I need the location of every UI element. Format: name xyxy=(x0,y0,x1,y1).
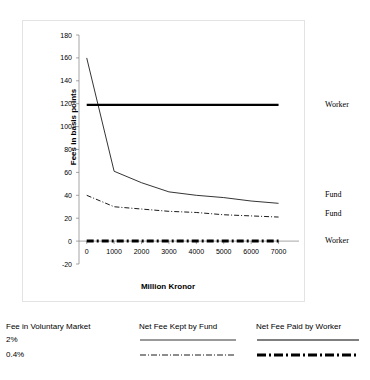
legend-value-04pct: 0.4% xyxy=(6,350,24,360)
y-tick-label: 120 xyxy=(46,100,72,107)
x-tick-label: 4000 xyxy=(181,248,211,255)
x-tick-label: 0 xyxy=(72,248,102,255)
legend-row-worker-04pct xyxy=(256,347,370,362)
series-line-1 xyxy=(87,58,279,203)
series-label-worker-0: Worker xyxy=(325,100,349,109)
series-label-fund-2: Fund xyxy=(325,209,341,218)
x-tick-label: 6000 xyxy=(236,248,266,255)
series-line-2 xyxy=(87,195,279,217)
x-tick-label: 5000 xyxy=(209,248,239,255)
legend-row-2pct: 2% xyxy=(6,332,136,347)
y-tick-label: 40 xyxy=(46,192,72,199)
legend-column-fee-in-voluntary-market: Fee in Voluntary Market 2% 0.4% xyxy=(6,322,136,362)
x-tick-label: 1000 xyxy=(99,248,129,255)
legend-header-fund: Net Fee Kept by Fund xyxy=(139,322,249,332)
x-axis-title: Million Kronor xyxy=(63,282,273,291)
legend-column-net-fee-paid-by-worker: Net Fee Paid by Worker xyxy=(256,322,370,362)
y-tick-label: 20 xyxy=(46,215,72,222)
legend-row-fund-04pct xyxy=(139,347,249,362)
legend-value-2pct: 2% xyxy=(6,335,18,345)
y-tick-label: 0 xyxy=(46,238,72,245)
legend-header-voluntary-market: Fee in Voluntary Market xyxy=(6,322,136,332)
x-tick-label: 3000 xyxy=(154,248,184,255)
y-tick-label: 180 xyxy=(46,32,72,39)
legend-swatch-thick-dash-dot xyxy=(256,351,360,359)
series-label-worker-3: Worker xyxy=(325,236,349,245)
legend-column-net-fee-kept-by-fund: Net Fee Kept by Fund xyxy=(139,322,249,362)
legend-row-worker-2pct xyxy=(256,332,370,347)
legend-swatch-thin-dash-dot xyxy=(139,351,237,359)
y-tick-label: 60 xyxy=(46,169,72,176)
axis-layer xyxy=(76,35,299,264)
x-tick-label: 7000 xyxy=(264,248,294,255)
y-tick-label: 140 xyxy=(46,77,72,84)
chart-frame: Fees in basis points Million Kronor 1801… xyxy=(22,20,305,302)
y-tick-label: 100 xyxy=(46,123,72,130)
legend-row-fund-2pct xyxy=(139,332,249,347)
y-tick-label: 80 xyxy=(46,146,72,153)
legend-swatch-thick-solid xyxy=(256,336,360,344)
legend-row-04pct: 0.4% xyxy=(6,347,136,362)
series-label-fund-1: Fund xyxy=(325,190,341,199)
legend-header-worker: Net Fee Paid by Worker xyxy=(256,322,370,332)
x-tick-label: 2000 xyxy=(127,248,157,255)
series-layer xyxy=(87,58,279,241)
y-tick-label: -20 xyxy=(46,261,72,268)
legend: Fee in Voluntary Market 2% 0.4% Net Fee … xyxy=(6,322,364,376)
y-tick-label: 160 xyxy=(46,54,72,61)
legend-swatch-thin-solid xyxy=(139,336,237,344)
